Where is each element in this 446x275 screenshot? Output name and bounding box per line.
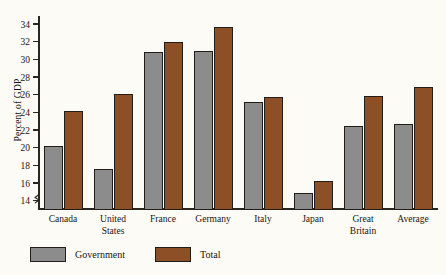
bar-government (44, 146, 63, 210)
x-axis-label: Italy (238, 214, 288, 237)
y-axis-tick-label: 20 (21, 143, 31, 153)
x-axis-label-line: Japan (288, 214, 338, 226)
bar-group (238, 16, 288, 210)
bar-total (264, 97, 283, 210)
x-axis-label-line: Italy (238, 214, 288, 226)
bar-group (38, 16, 88, 210)
y-axis-tick-label: 30 (21, 55, 31, 65)
x-axis-category-labels: CanadaUnitedStatesFranceGermanyItalyJapa… (38, 214, 438, 237)
x-axis-label-line: Average (388, 214, 438, 226)
x-axis-label: Average (388, 214, 438, 237)
bar-government (344, 126, 363, 210)
bar-groups (38, 16, 438, 210)
bar-government (394, 124, 413, 210)
x-axis-label: UnitedStates (88, 214, 138, 237)
x-axis-label-line: Britain (338, 226, 388, 238)
y-axis-tick-label: 26 (21, 90, 31, 100)
x-axis-label-line: United (88, 214, 138, 226)
bar-government (244, 102, 263, 210)
bar-total (214, 27, 233, 210)
y-axis-tick-label: 16 (21, 179, 31, 189)
bar-chart: Percent of GDP 1416182022242628303234 Ca… (0, 0, 446, 275)
bar-government (94, 169, 113, 210)
x-axis-label: Germany (188, 214, 238, 237)
y-axis-tick-label: 24 (21, 108, 31, 118)
bar-group (88, 16, 138, 210)
bar-total (364, 96, 383, 210)
bar-total (314, 181, 333, 210)
legend-label: Government (75, 249, 125, 260)
x-axis-label: Canada (38, 214, 88, 237)
y-axis-tick-label: 28 (21, 73, 31, 83)
chart-legend: GovernmentTotal (30, 247, 220, 262)
bar-group (138, 16, 188, 210)
x-axis-label-line: France (138, 214, 188, 226)
legend-item-gov: Government (30, 247, 125, 262)
bar-total (114, 94, 133, 210)
x-axis-label-line: Germany (188, 214, 238, 226)
legend-swatch-gov (30, 247, 66, 262)
y-axis-tick-label: 14 (21, 196, 31, 206)
bar-group (338, 16, 388, 210)
plot-area: 1416182022242628303234 (38, 16, 438, 210)
bar-group (288, 16, 338, 210)
legend-label: Total (200, 249, 220, 260)
legend-item-total: Total (155, 247, 220, 262)
y-axis-tick-label: 18 (21, 161, 31, 171)
bar-government (144, 52, 163, 210)
bar-group (188, 16, 238, 210)
x-axis-label: GreatBritain (338, 214, 388, 237)
x-axis-label-line: Great (338, 214, 388, 226)
x-axis-label-line: Canada (38, 214, 88, 226)
bar-total (414, 87, 433, 210)
x-axis-label: Japan (288, 214, 338, 237)
bar-group (388, 16, 438, 210)
y-axis-tick-label: 34 (21, 20, 31, 30)
y-axis-tick-label: 22 (21, 126, 31, 136)
x-axis-label-line: States (88, 226, 138, 238)
x-axis-label: France (138, 214, 188, 237)
bar-government (194, 51, 213, 210)
y-axis-tick-label: 32 (21, 37, 31, 47)
bar-total (164, 42, 183, 210)
legend-swatch-total (155, 247, 191, 262)
bar-total (64, 111, 83, 210)
bar-government (294, 193, 313, 210)
